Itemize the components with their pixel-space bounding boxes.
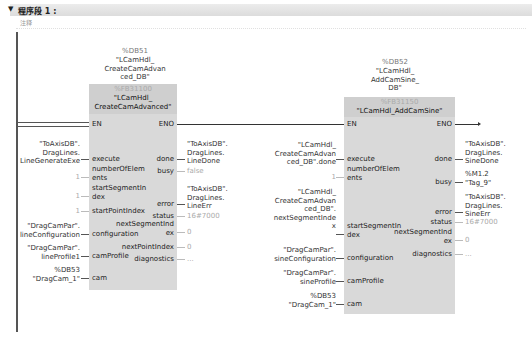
block2-out-status-value[interactable]: 16#7000 bbox=[465, 218, 498, 227]
block1-out-error-value[interactable]: "ToAxisDB". DragLines. LineErr bbox=[187, 185, 228, 211]
block2-pin-cam: cam bbox=[347, 300, 362, 309]
block1-out-busy-value[interactable]: false bbox=[187, 167, 204, 176]
block2-eno-pin: ENO bbox=[415, 120, 452, 129]
block1-out-nextPointIndex-value[interactable]: 0 bbox=[187, 243, 191, 252]
block2-out-nextSegmentIndex-value[interactable]: 0 bbox=[465, 236, 469, 245]
block1-in-execute-value[interactable]: "ToAxisDB". DragLines. LineGenerateExe bbox=[10, 140, 80, 166]
block2-pin-camProfile: camProfile bbox=[347, 277, 384, 286]
block2-in-camProfile-value[interactable]: "DragCamPar". sineProfile bbox=[255, 269, 336, 286]
wire bbox=[81, 256, 89, 257]
block1-in-cam-value[interactable]: %DB53 "DragCam_1" bbox=[10, 266, 80, 283]
block2-pin-numberOfElements: numberOfElem ents bbox=[347, 165, 400, 182]
block1-pin-execute: execute bbox=[92, 155, 120, 164]
network-title: 程序段 1 : bbox=[18, 5, 56, 16]
block2-pin-error: error bbox=[408, 208, 452, 217]
wire bbox=[177, 171, 185, 172]
block1-out-diagnostics-value[interactable]: ... bbox=[187, 255, 194, 264]
block1-out-nextSegmentIndex-value[interactable]: 0 bbox=[187, 228, 191, 237]
block1-fb-addr: %FB31100 bbox=[89, 85, 177, 94]
block1-pin-error: error bbox=[130, 200, 174, 209]
wire bbox=[336, 177, 344, 178]
block1-instance-name[interactable]: "LCamHdl_ CreateCamAdvan ced_DB" bbox=[85, 56, 185, 82]
block2-in-configuration-value[interactable]: "DragCamPar". sineConfiguration bbox=[255, 246, 336, 263]
block2-out-busy-value[interactable]: %M1.2 "Tag_9" bbox=[465, 170, 491, 187]
block1-pin-startSegmentIndex: startSegmentIn dex bbox=[92, 184, 146, 201]
block2-eno-wire bbox=[455, 124, 479, 125]
block1-pin-nextPointIndex: nextPointIndex bbox=[110, 243, 174, 252]
block1-in-startPointIndex-value[interactable]: 1 bbox=[40, 207, 80, 216]
block1-fb-name[interactable]: "LCamHdl_ CreateCamAdvanced" bbox=[89, 94, 177, 111]
wire bbox=[455, 212, 463, 213]
wire bbox=[81, 211, 89, 212]
block2-instance-name[interactable]: "LCamHdl_ AddCamSine_ DB" bbox=[345, 67, 445, 93]
wire bbox=[81, 159, 89, 160]
wire bbox=[455, 222, 463, 223]
block1-in-configuration-value[interactable]: "DragCamPar". lineConfiguration bbox=[10, 222, 80, 239]
block2-pin-status: status bbox=[408, 218, 452, 227]
wire bbox=[177, 204, 185, 205]
wire bbox=[455, 254, 463, 255]
block2-pin-configuration: configuration bbox=[347, 254, 393, 263]
block1-en-wire bbox=[18, 122, 89, 127]
block2-in-numberOfElements-value[interactable]: 1 bbox=[296, 173, 336, 182]
block1-en-pin: EN bbox=[92, 120, 102, 129]
eno-to-en-wire bbox=[177, 124, 344, 125]
network-header[interactable]: ▼ 程序段 1 : bbox=[10, 4, 532, 16]
block1-instance-addr: %DB51 bbox=[85, 47, 185, 56]
wire bbox=[177, 216, 185, 217]
wire bbox=[177, 259, 185, 260]
block2-en-pin: EN bbox=[347, 120, 357, 129]
block1-pin-cam: cam bbox=[92, 274, 107, 283]
wire bbox=[336, 304, 344, 305]
wire bbox=[81, 278, 89, 279]
wire bbox=[455, 240, 463, 241]
coil-end-arrow-icon bbox=[478, 122, 481, 126]
wire bbox=[177, 232, 185, 233]
wire bbox=[455, 182, 463, 183]
wire bbox=[336, 258, 344, 259]
block1-pin-done: done bbox=[130, 155, 174, 164]
block1-out-done-value[interactable]: "ToAxisDB". DragLines. LineDone bbox=[187, 140, 228, 166]
wire bbox=[177, 159, 185, 160]
block2-fb-addr: %FB31150 bbox=[344, 98, 455, 107]
block2-in-startSegmentIndex-value[interactable]: "LCamHdl_ CreateCamAdvan ced_DB". nextSe… bbox=[255, 188, 336, 231]
wire bbox=[81, 234, 89, 235]
block2-in-cam-value[interactable]: %DB53 "DragCam_1" bbox=[255, 292, 336, 309]
block2-pin-execute: execute bbox=[347, 155, 375, 164]
block1-pin-nextSegmentIndex: nextSegmentInd ex bbox=[110, 220, 174, 237]
wire bbox=[81, 196, 89, 197]
block2-fb-name[interactable]: "LCamHdl_AddCamSine" bbox=[344, 107, 455, 116]
block1-pin-busy: busy bbox=[130, 167, 174, 176]
block2-in-execute-value[interactable]: "LCamHdl_ CreateCamAdvan ced_DB".done bbox=[260, 141, 336, 167]
block2-out-error-value[interactable]: "ToAxisDB". DragLines. SineErr bbox=[465, 193, 506, 219]
block1-pin-diagnostics: diagnostics bbox=[110, 255, 174, 264]
block1-in-numberOfElements-value[interactable]: 1 bbox=[40, 173, 80, 182]
block2-pin-nextSegmentIndex: nextSegmentInd ex bbox=[388, 228, 452, 245]
block1-in-startSegmentIndex-value[interactable]: 1 bbox=[40, 192, 80, 201]
wire bbox=[177, 247, 185, 248]
block1-out-status-value[interactable]: 16#7000 bbox=[187, 212, 220, 221]
collapse-toggle-icon[interactable]: ▼ bbox=[8, 5, 13, 13]
power-rail bbox=[16, 32, 18, 332]
network-comment[interactable]: 注释 bbox=[20, 18, 32, 27]
wire bbox=[455, 159, 463, 160]
block2-pin-busy: busy bbox=[408, 178, 452, 187]
comment-divider bbox=[16, 28, 526, 29]
block1-in-camProfile-value[interactable]: "DragCamPar". lineProfile1 bbox=[10, 244, 80, 261]
wire bbox=[81, 177, 89, 178]
block2-out-done-value[interactable]: "ToAxisDB". DragLines. SineDone bbox=[465, 140, 506, 166]
wire bbox=[336, 234, 344, 235]
block2-instance-addr: %DB52 bbox=[345, 58, 445, 67]
wire bbox=[336, 281, 344, 282]
block1-eno-pin: ENO bbox=[140, 120, 174, 129]
block2-pin-diagnostics: diagnostics bbox=[388, 250, 452, 259]
block2-pin-done: done bbox=[408, 155, 452, 164]
wire bbox=[336, 159, 344, 160]
block2-out-diagnostics-value[interactable]: ... bbox=[465, 250, 472, 259]
